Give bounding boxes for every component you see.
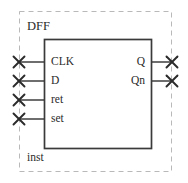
port-label-qn: Qn <box>105 75 145 87</box>
port-label-clk: CLK <box>51 56 74 68</box>
dff-schematic-canvas: DFF inst CLK D ret set Q Qn <box>0 0 188 183</box>
block-type-label: DFF <box>27 20 50 33</box>
input-wires <box>19 62 44 119</box>
instance-name-label: inst <box>27 152 44 164</box>
port-label-d: D <box>51 75 59 87</box>
port-label-q: Q <box>105 56 145 68</box>
port-label-set: set <box>51 113 64 125</box>
port-label-ret: ret <box>51 94 63 106</box>
